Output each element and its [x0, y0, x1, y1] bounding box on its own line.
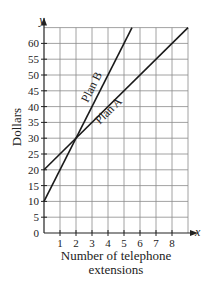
- x-axis-title-line1: Number of telephone: [61, 248, 172, 263]
- y-axis-title: Dollars: [9, 108, 24, 146]
- chart: 05101520253035404550556012345678 y x Dol…: [0, 0, 210, 290]
- y-tick-label: 60: [28, 37, 40, 49]
- y-tick-label: 5: [34, 211, 40, 223]
- y-tick-label: 30: [28, 132, 40, 144]
- x-axis-variable: x: [194, 225, 201, 239]
- y-tick-label: 40: [28, 101, 40, 113]
- series-lines: [44, 28, 188, 202]
- plan-a-label: Plan A: [92, 94, 125, 127]
- axes: [41, 18, 198, 236]
- y-tick-label: 10: [28, 195, 40, 207]
- y-tick-label: 35: [28, 116, 40, 128]
- x-axis-title-line2: extensions: [89, 262, 144, 277]
- y-tick-label: 20: [28, 164, 40, 176]
- y-tick-label: 55: [28, 53, 40, 65]
- line-plan-b: [44, 28, 132, 202]
- y-tick-label: 45: [28, 85, 40, 97]
- y-tick-label: 0: [34, 227, 40, 239]
- y-tick-label: 15: [28, 180, 40, 192]
- y-axis-variable: y: [38, 13, 45, 27]
- y-tick-label: 50: [28, 69, 40, 81]
- y-tick-label: 25: [28, 148, 40, 160]
